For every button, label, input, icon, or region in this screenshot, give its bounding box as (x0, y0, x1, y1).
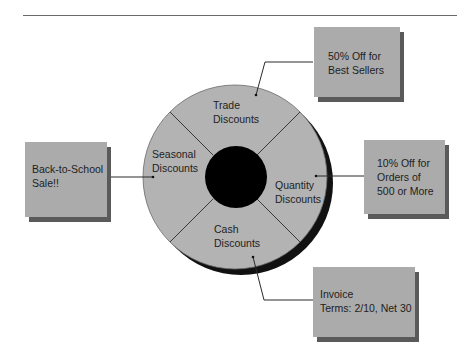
callout-trade: 50% Off for Best Sellers (314, 27, 400, 97)
callout-cash-line-1: Invoice (320, 287, 412, 301)
callout-quantity-line-1: 10% Off for (377, 156, 434, 170)
callout-trade-line-1: 50% Off for (328, 49, 384, 63)
callout-trade-line-2: Best Sellers (328, 63, 384, 77)
callout-quantity: 10% Off for Orders of 500 or More (364, 140, 445, 214)
callout-quantity-line-3: 500 or More (377, 184, 434, 198)
callout-seasonal-line-1: Back-to-School (32, 162, 103, 176)
callout-seasonal-line-2: Sale!! (32, 176, 103, 190)
callout-quantity-line-2: Orders of (377, 170, 434, 184)
callout-cash-line-2: Terms: 2/10, Net 30 (320, 301, 412, 315)
callout-cash: Invoice Terms: 2/10, Net 30 (313, 267, 415, 337)
callout-seasonal: Back-to-School Sale!! (25, 142, 107, 217)
hub (205, 146, 267, 208)
